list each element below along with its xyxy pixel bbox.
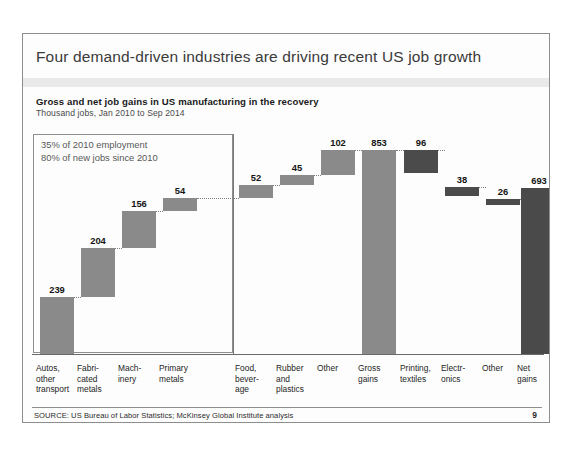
bar-gross-gains (362, 150, 396, 354)
bar-rubber-and-plastics (280, 175, 314, 186)
section-divider-line (233, 134, 234, 355)
bar-printing-textiles (404, 150, 438, 173)
page-title: Four demand-driven industries are drivin… (36, 48, 536, 66)
waterfall-connector (156, 211, 163, 212)
bar-value-label: 204 (74, 235, 122, 246)
bar-value-label: 156 (115, 198, 163, 209)
page-number: 9 (532, 410, 537, 420)
chart-units-label: Thousand jobs, Jan 2010 to Sep 2014 (36, 108, 185, 118)
waterfall-connector (396, 150, 404, 151)
source-note: SOURCE: US Bureau of Labor Statistics; M… (34, 411, 293, 420)
bar-autos-other-transport (40, 297, 74, 354)
bar-value-label: 45 (273, 162, 321, 173)
bar-fabricated-metals (81, 248, 115, 297)
category-label-machinery: Mach- inery (118, 363, 162, 384)
bar-value-label: 96 (397, 137, 445, 148)
bar-value-label: 26 (479, 186, 527, 197)
waterfall-connector (74, 297, 81, 298)
slide: Four demand-driven industries are drivin… (22, 33, 550, 423)
waterfall-connector (438, 150, 445, 151)
bar-primary-metals (163, 198, 197, 211)
category-label-gross-gains: Gross gains (358, 363, 402, 384)
x-axis-line (32, 354, 544, 355)
bar-value-label: 38 (438, 174, 486, 185)
category-label-other: Other (317, 363, 361, 374)
category-label-printing-textiles: Printing, textiles (400, 363, 444, 384)
category-label-net-gains: Net gains (517, 363, 550, 384)
chart-subtitle: Gross and net job gains in US manufactur… (36, 96, 319, 107)
category-label-fabricated-metals: Fabri- cated metals (77, 363, 121, 395)
category-label-autos-other-transport: Autos, other transport (36, 363, 80, 395)
category-label-electronics: Electr- onics (441, 363, 485, 384)
footer-divider (32, 407, 542, 408)
bar-machinery (122, 211, 156, 248)
annotation-text: 35% of 2010 employment 80% of new jobs s… (41, 139, 158, 164)
waterfall-connector (314, 175, 321, 176)
bar-value-label: 52 (232, 172, 280, 183)
waterfall-connector (355, 150, 362, 151)
waterfall-chart-plot-area: 35% of 2010 employment 80% of new jobs s… (32, 132, 542, 354)
category-label-rubber-and-plastics: Rubber and plastics (276, 363, 320, 395)
bar-food-beverage (239, 185, 273, 197)
title-divider-band (23, 78, 550, 87)
waterfall-connector (115, 248, 122, 249)
bar-net-gains (521, 188, 550, 354)
bar-value-label: 853 (355, 137, 403, 148)
category-label-food-beverage: Food, bever- age (235, 363, 279, 395)
bar-value-label: 54 (156, 185, 204, 196)
bar-electronics (445, 187, 479, 196)
category-axis-labels: Autos, other transportFabri- cated metal… (32, 359, 544, 407)
bar-other (486, 199, 520, 205)
waterfall-connector (273, 185, 280, 186)
bar-value-label: 239 (33, 284, 81, 295)
waterfall-connector (520, 199, 521, 200)
bar-value-label: 693 (514, 175, 550, 186)
bar-other (321, 150, 355, 174)
waterfall-connector (479, 187, 486, 188)
category-label-primary-metals: Primary metals (159, 363, 203, 384)
